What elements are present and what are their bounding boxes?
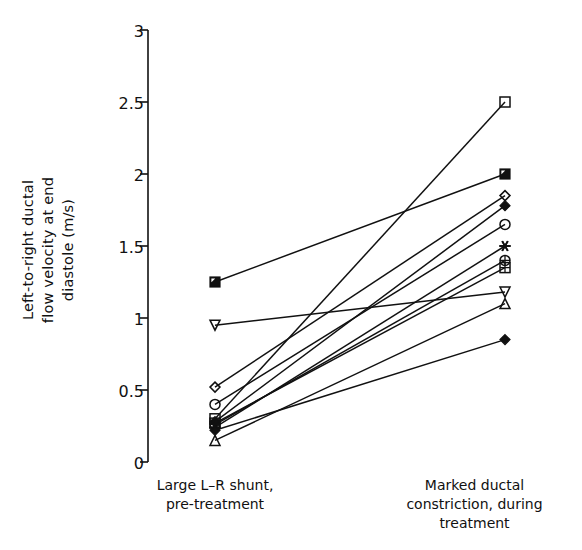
series-connector-line (215, 174, 505, 282)
series-connector-line (215, 224, 505, 404)
scatter-slope-chart: Left-to-right ductal flow velocity at en… (0, 0, 582, 550)
y-axis-ticks (140, 30, 148, 462)
data-point-marker[interactable] (500, 169, 510, 179)
plot-canvas (0, 0, 582, 550)
series-line-group (215, 102, 505, 440)
data-point-marker[interactable] (210, 277, 220, 287)
data-point-marker[interactable] (499, 241, 510, 251)
series-connector-line (215, 292, 505, 325)
axis-lines (140, 30, 148, 462)
series-connector-line (215, 340, 505, 431)
data-point-marker[interactable] (500, 335, 510, 345)
